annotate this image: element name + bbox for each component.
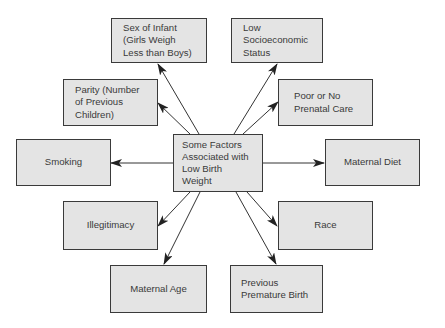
factor-label: Race — [314, 219, 336, 231]
factor-maternal-age: Maternal Age — [110, 265, 207, 313]
factor-label: Sex of Infant (Girls Weigh Less than Boy… — [123, 22, 192, 59]
factor-label: Poor or No Prenatal Care — [294, 90, 353, 114]
factor-previous-premature-birth: Previous Premature Birth — [230, 265, 323, 313]
arrow-to-prenatal — [243, 102, 278, 134]
factor-maternal-diet: Maternal Diet — [325, 139, 420, 186]
factor-prenatal-care: Poor or No Prenatal Care — [278, 79, 373, 126]
factor-low-socioeconomic-status: Low Socioeconomic Status — [231, 18, 323, 63]
factor-label: Low Socioeconomic Status — [243, 22, 308, 59]
factor-race: Race — [278, 201, 373, 250]
factor-label: Parity (Number of Previous Children) — [75, 84, 140, 121]
arrow-to-ses — [234, 64, 277, 134]
factor-sex-of-infant: Sex of Infant (Girls Weigh Less than Boy… — [111, 18, 207, 63]
center-node-label: Some Factors Associated with Low Birth W… — [182, 139, 249, 188]
arrow-to-parity — [158, 103, 190, 134]
factor-label: Smoking — [45, 156, 82, 168]
factor-parity: Parity (Number of Previous Children) — [63, 79, 158, 126]
factor-label: Illegitimacy — [87, 219, 134, 231]
center-node: Some Factors Associated with Low Birth W… — [173, 134, 263, 192]
factor-illegitimacy: Illegitimacy — [63, 201, 158, 250]
arrow-to-age — [164, 192, 200, 264]
factor-label: Previous Premature Birth — [241, 277, 308, 301]
factor-label: Maternal Diet — [344, 156, 401, 168]
factor-label: Maternal Age — [130, 283, 187, 295]
factor-smoking: Smoking — [16, 139, 111, 186]
